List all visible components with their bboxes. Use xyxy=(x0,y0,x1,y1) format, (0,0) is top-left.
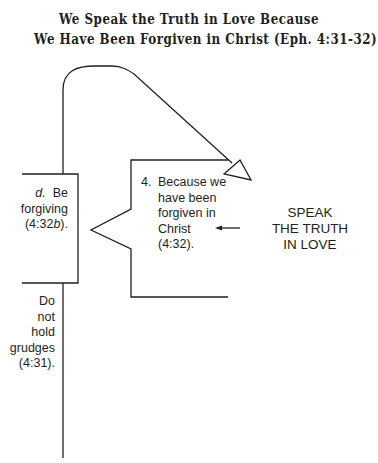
below-line-1: Do xyxy=(2,294,55,310)
point-number: 4. xyxy=(141,175,159,191)
left-box-line-1: Be xyxy=(53,186,68,200)
below-line-3: hold xyxy=(2,325,55,341)
point-line-2: have been xyxy=(158,191,238,207)
main-idea-line-1: SPEAK xyxy=(255,205,365,221)
point-text: Because we have been forgiven in Christ … xyxy=(158,175,238,253)
main-idea-line-2: THE TRUTH xyxy=(255,221,365,237)
diagram-canvas: We Speak the Truth in Love Because We Ha… xyxy=(0,0,378,463)
left-box-line-2: forgiving xyxy=(14,202,68,218)
left-box-line-3: (4:32b). xyxy=(14,217,68,233)
point-line-3: forgiven in xyxy=(158,206,238,222)
left-box-letter: d. xyxy=(35,186,45,200)
below-line-5: (4:31). xyxy=(2,356,55,372)
below-line-4: grudges xyxy=(2,341,55,357)
point-line-4: Christ xyxy=(158,222,238,238)
below-line-text: Do not hold grudges (4:31). xyxy=(2,294,55,372)
point-line-5: (4:32). xyxy=(158,237,238,253)
spine-curve-line xyxy=(63,66,232,174)
left-box-text: d. Be forgiving (4:32b). xyxy=(14,186,68,233)
main-idea-text: SPEAK THE TRUTH IN LOVE xyxy=(255,205,365,253)
main-idea-line-3: IN LOVE xyxy=(255,237,365,253)
point-line-1: Because we xyxy=(158,175,238,191)
below-line-2: not xyxy=(2,310,55,326)
